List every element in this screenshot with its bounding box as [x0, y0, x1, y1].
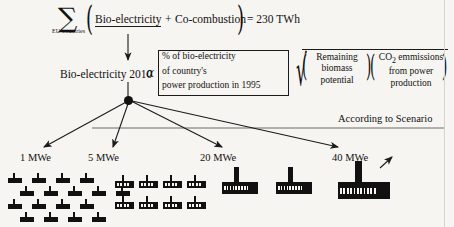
plant-window [244, 186, 246, 190]
alpha-symbol: α [146, 67, 154, 80]
plant-window [199, 183, 201, 185]
plant-smokestack [49, 212, 51, 218]
plant-window [165, 204, 167, 206]
plant-icon [92, 211, 106, 222]
group-co2-emissions: CO2 emmissions from power production [375, 52, 447, 89]
plant-windows [340, 188, 376, 194]
plant-icon [338, 163, 390, 199]
plant-base [68, 191, 82, 196]
plant-window [148, 204, 150, 206]
label-bio-electricity-2010: Bio-electricity 2010 [60, 68, 152, 80]
plant-window [141, 204, 143, 206]
plant-window [192, 204, 194, 206]
plant-icon [276, 168, 312, 194]
plant-window [192, 183, 194, 185]
plant-smokestack [288, 167, 293, 183]
plant-smokestack [49, 186, 51, 192]
plant-smokestack [61, 173, 63, 179]
plant-window [247, 186, 249, 190]
plant-smokestack [13, 173, 15, 179]
plant-window [230, 186, 232, 190]
plant-window [175, 183, 177, 185]
diagram-canvas: ∑ EU-countries ( Bio-electricity + Co-co… [0, 0, 454, 227]
paren-close-row1: ) [237, 2, 244, 37]
plant-windows [278, 186, 302, 190]
remaining-line-3: potential [308, 75, 366, 86]
plant-icon [68, 185, 82, 196]
plant-windows [141, 183, 153, 185]
plant-base [56, 178, 70, 183]
plant-window [124, 204, 126, 206]
plant-icon [92, 185, 106, 196]
plant-smokestack [122, 196, 124, 203]
bracket-line-1: % of bio-electricity [162, 52, 236, 62]
plant-windows [165, 204, 177, 206]
plant-smokestack [37, 199, 39, 205]
plant-smokestack [146, 175, 148, 182]
emissions-text: emmissions [396, 52, 443, 62]
plant-group-1mwe [8, 172, 113, 224]
plant-group-5mwe [115, 174, 207, 218]
co2-text: CO [379, 52, 392, 62]
plant-icon [163, 195, 182, 209]
plant-windows [224, 186, 248, 190]
plant-group-20mwe [222, 168, 314, 218]
plant-icon [139, 195, 158, 209]
plant-window [370, 188, 372, 194]
plant-icon [115, 195, 134, 209]
plant-smokestack [13, 199, 15, 205]
plant-smokestack [97, 212, 99, 218]
plant-window [127, 204, 129, 206]
plant-window [189, 183, 191, 185]
remaining-line-1: Remaining [308, 52, 366, 63]
co2-line-2: from power [375, 66, 447, 77]
plant-icon [139, 174, 158, 188]
plant-base [56, 204, 70, 209]
plant-group-40mwe [338, 163, 420, 219]
plant-smokestack [37, 173, 39, 179]
plant-icon [32, 172, 46, 183]
capacity-label-5mwe: 5 MWe [88, 152, 119, 163]
plant-window [360, 188, 362, 194]
operator-plus: + [165, 13, 172, 25]
plant-smokestack [97, 186, 99, 192]
plant-base [80, 204, 94, 209]
plant-window [354, 188, 356, 194]
plant-windows [189, 183, 201, 185]
plant-windows [141, 204, 153, 206]
plant-icon [187, 174, 206, 188]
plant-base [68, 217, 82, 222]
plant-window [189, 204, 191, 206]
plant-smokestack [25, 186, 27, 192]
plant-windows [117, 183, 129, 185]
plant-icon [44, 185, 58, 196]
plant-base [32, 178, 46, 183]
plant-icon [20, 211, 34, 222]
plant-smokestack [146, 196, 148, 203]
plant-icon [80, 198, 94, 209]
plant-base [20, 217, 34, 222]
bracket-line-3: power production in 1995 [162, 81, 260, 91]
plant-window [168, 204, 170, 206]
plant-window [172, 204, 174, 206]
arrow-to-20mwe [131, 101, 222, 147]
plant-window [340, 188, 342, 194]
plant-window [295, 186, 297, 190]
plant-icon [80, 172, 94, 183]
plant-window [175, 204, 177, 206]
plant-window [144, 183, 146, 185]
bracket-line-2: of country's [162, 67, 207, 77]
plant-icon [20, 185, 34, 196]
equals-230-twh: = 230 TWh [247, 13, 300, 25]
plant-window [120, 204, 122, 206]
plant-icon [222, 168, 258, 194]
paren-open-row1: ( [86, 2, 93, 37]
plant-window [172, 183, 174, 185]
plant-window [281, 186, 283, 190]
plant-window [292, 186, 294, 190]
plant-base [80, 178, 94, 183]
distribution-node [124, 96, 133, 105]
plant-window [124, 183, 126, 185]
term-bio-electricity: Bio-electricity [95, 13, 161, 27]
plant-window [367, 188, 369, 194]
